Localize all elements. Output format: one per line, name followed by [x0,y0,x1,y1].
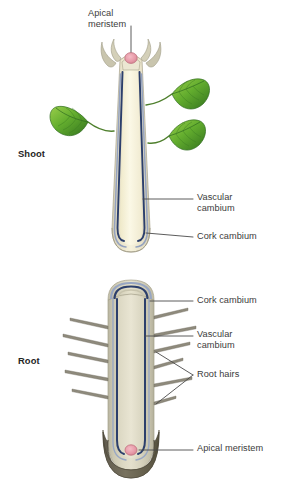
label-apical-meristem-top: Apical meristem [88,8,126,30]
root-group [63,280,196,478]
leaf-left [50,106,114,135]
leader-roothairs-b [156,375,193,404]
diagram-canvas [0,0,284,491]
label-shoot: Shoot [18,148,45,159]
root-hair [70,318,108,329]
root-hair [154,342,190,353]
root-hair [68,352,108,363]
leaf-left-petiole [88,122,114,131]
primordium-inner-right [141,39,151,61]
leader-cork-shoot [146,233,193,237]
leaf-right-upper [146,79,210,109]
apical-meristem-dot-shoot [125,53,137,64]
leader-roothairs-a [156,352,193,375]
label-cork-cambium-root: Cork cambium [197,295,257,306]
leaf-right-lower-petiole [148,136,169,143]
leaf-right-upper-blade [172,79,210,109]
apical-meristem-dot-root [125,445,137,455]
label-vascular-cambium-shoot: Vascular cambium [197,192,235,214]
root-hair [154,326,196,337]
root-hairs-left [63,318,108,399]
root-hair [72,389,108,399]
shoot-group [50,39,210,252]
leaf-right-lower-blade [169,120,206,150]
label-apical-meristem-bottom: Apical meristem [197,443,263,454]
label-cork-cambium-shoot: Cork cambium [197,231,257,242]
leaf-right-lower [148,120,206,150]
root-hair [154,308,188,319]
primordium-inner-left [111,39,121,61]
root-hair [63,334,108,347]
plant-meristem-diagram: Apical meristem Shoot Vascular cambium C… [0,0,284,491]
label-root-hairs: Root hairs [197,369,239,380]
label-root: Root [18,355,40,366]
label-vascular-cambium-root: Vascular cambium [197,329,235,351]
root-pith [118,295,144,458]
root-hairs-right [154,308,196,405]
root-hair [154,377,192,387]
leaf-right-upper-petiole [146,94,172,105]
root-hair [65,370,108,381]
